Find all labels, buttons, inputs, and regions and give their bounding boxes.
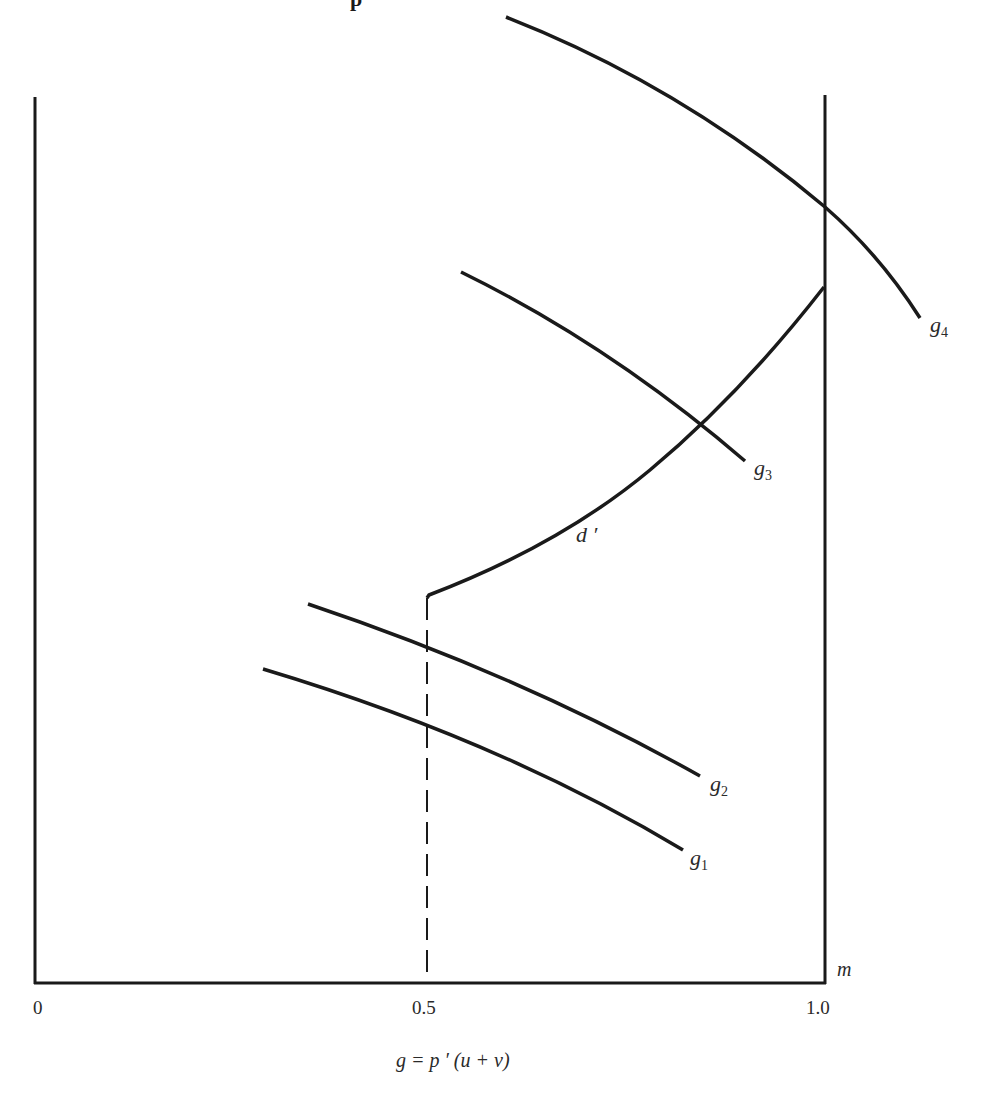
x-tick-0: 0	[33, 997, 43, 1019]
label-d-prime: d ′	[576, 522, 597, 548]
curve-g2	[308, 604, 700, 776]
x-tick-1-0: 1.0	[806, 997, 830, 1019]
label-g3: g3	[754, 455, 772, 484]
curve-g4	[506, 17, 920, 318]
x-axis-end-label: m	[837, 958, 851, 981]
label-g4: g4	[930, 312, 948, 341]
curve-g1	[263, 669, 683, 850]
curve-g3	[461, 272, 745, 461]
label-g1: g1	[690, 845, 708, 874]
x-axis-caption: g = p ′ (u + v)	[396, 1049, 510, 1072]
label-g2: g2	[710, 771, 728, 800]
x-tick-0-5: 0.5	[412, 997, 436, 1019]
diagram-canvas	[0, 0, 987, 1094]
curve-d-prime	[427, 287, 824, 598]
